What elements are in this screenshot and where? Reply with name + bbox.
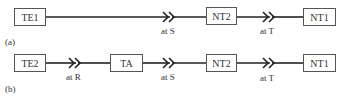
row-label-b: (b) bbox=[5, 84, 16, 94]
box-nt2-b: NT2 bbox=[206, 54, 237, 72]
ref-point-t-b: at T bbox=[260, 73, 274, 83]
box-te1: TE1 bbox=[14, 8, 46, 26]
connector-lines bbox=[0, 0, 349, 97]
isdn-reference-diagram: TE1 NT2 NT1 at S at T (a) TE2 TA NT2 NT1… bbox=[0, 0, 349, 97]
box-nt1-a: NT1 bbox=[303, 8, 336, 26]
row-label-a: (a) bbox=[5, 37, 15, 47]
ref-point-t-a: at T bbox=[260, 26, 274, 36]
box-te2: TE2 bbox=[14, 54, 46, 72]
box-nt1-b: NT1 bbox=[303, 54, 336, 72]
ref-point-s-b: at S bbox=[161, 72, 175, 82]
box-ta: TA bbox=[110, 54, 143, 72]
ref-point-r-b: at R bbox=[66, 72, 81, 82]
ref-point-s-a: at S bbox=[161, 26, 175, 36]
box-nt2-a: NT2 bbox=[206, 7, 237, 25]
